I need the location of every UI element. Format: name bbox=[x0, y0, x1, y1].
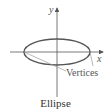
ellipse-diagram: y x Vertices bbox=[0, 0, 111, 111]
vertex-leader-right bbox=[90, 52, 93, 66]
vertices-label: Vertices bbox=[66, 67, 98, 78]
x-axis-label: x bbox=[96, 53, 102, 64]
vertex-leader-left bbox=[24, 52, 66, 71]
y-axis-label: y bbox=[48, 4, 54, 15]
diagram-caption: Ellipse bbox=[0, 97, 111, 109]
